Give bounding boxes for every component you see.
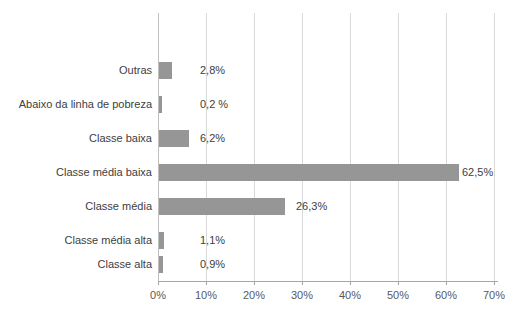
chart-row: Classe alta 0,9%	[0, 256, 513, 290]
x-tick-mark-0	[158, 281, 159, 285]
bar-outras	[159, 62, 172, 79]
bar-classe-alta	[159, 256, 163, 273]
bar-value-label: 62,5%	[462, 164, 493, 181]
bar-abaixo-da-linha-de-pobreza	[159, 96, 162, 113]
chart-row: Abaixo da linha de pobreza 0,2 %	[0, 96, 513, 130]
category-label: Classe alta	[0, 256, 152, 273]
category-label: Classe média baixa	[0, 164, 152, 181]
bar-value-label: 0,9%	[200, 256, 225, 273]
x-tick-mark-20	[254, 281, 255, 285]
category-label: Abaixo da linha de pobreza	[0, 96, 152, 113]
category-label: Classe baixa	[0, 130, 152, 147]
x-tick-mark-70	[494, 281, 495, 285]
x-tick-mark-40	[350, 281, 351, 285]
chart-row: Classe média baixa 62,5%	[0, 164, 513, 198]
x-tick-label: 50%	[378, 288, 418, 302]
x-tick-label: 20%	[234, 288, 274, 302]
bar-value-label: 26,3%	[296, 198, 327, 215]
x-tick-label: 60%	[426, 288, 466, 302]
bar-classe-baixa	[159, 130, 189, 147]
category-label: Classe média alta	[0, 232, 152, 249]
x-tick-mark-60	[446, 281, 447, 285]
bar-chart: Outras 2,8% Abaixo da linha de pobreza 0…	[0, 0, 513, 323]
category-label: Classe média	[0, 198, 152, 215]
x-tick-label: 30%	[282, 288, 322, 302]
chart-row: Classe média 26,3%	[0, 198, 513, 232]
x-tick-mark-50	[398, 281, 399, 285]
x-tick-label: 0%	[138, 288, 178, 302]
bar-value-label: 6,2%	[200, 130, 225, 147]
x-tick-mark-30	[302, 281, 303, 285]
bar-value-label: 2,8%	[200, 62, 225, 79]
bar-classe-media-baixa	[159, 164, 459, 181]
chart-row: Outras 2,8%	[0, 62, 513, 96]
x-tick-label: 40%	[330, 288, 370, 302]
bar-classe-media-alta	[159, 232, 164, 249]
bar-classe-media	[159, 198, 285, 215]
x-tick-label: 70%	[474, 288, 513, 302]
x-tick-label: 10%	[186, 288, 226, 302]
bar-value-label: 1,1%	[200, 232, 225, 249]
x-axis-line	[158, 281, 498, 282]
chart-row: Classe baixa 6,2%	[0, 130, 513, 164]
bar-value-label: 0,2 %	[200, 96, 228, 113]
x-tick-mark-10	[206, 281, 207, 285]
category-label: Outras	[0, 62, 152, 79]
